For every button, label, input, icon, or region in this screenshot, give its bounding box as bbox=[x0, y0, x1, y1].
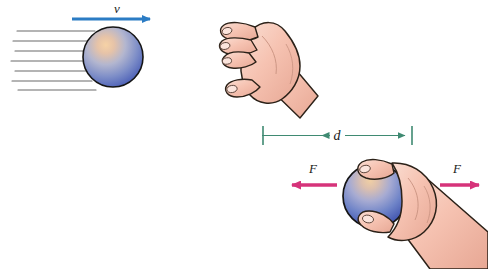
force-left-label: F bbox=[308, 161, 318, 176]
hand-gripping-ball bbox=[343, 160, 488, 269]
distance-label: d bbox=[334, 128, 342, 143]
open-catching-hand bbox=[219, 23, 318, 118]
force-right-label: F bbox=[452, 161, 462, 176]
physics-figure: v bbox=[0, 0, 488, 269]
velocity-label: v bbox=[114, 1, 120, 16]
ball-in-flight bbox=[83, 27, 143, 87]
